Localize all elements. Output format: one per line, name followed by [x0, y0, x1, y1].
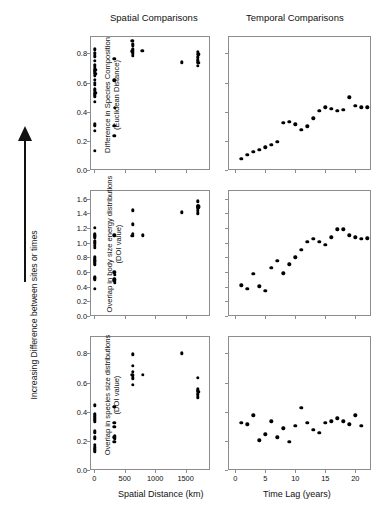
data-point [324, 421, 327, 424]
data-point [354, 104, 357, 107]
data-point [258, 285, 261, 288]
data-point [141, 49, 144, 52]
x-tick-label: 15 [321, 474, 329, 483]
data-point [348, 95, 351, 98]
plot-area [228, 336, 371, 470]
data-point [288, 263, 291, 266]
y-tick-mark [87, 470, 90, 471]
y-tick-mark [225, 441, 228, 442]
y-tick-label: 0.4 [77, 107, 87, 116]
y-tick-mark [87, 316, 90, 317]
data-point [180, 211, 183, 214]
data-point [360, 424, 363, 427]
x-tick-label: 1000 [147, 474, 163, 483]
y-tick-mark [87, 441, 90, 442]
x-tick-label: 10 [291, 474, 299, 483]
y-axis-title-mid: Overlap in body size energy distribution… [105, 170, 123, 318]
data-point [258, 438, 261, 441]
y-tick-mark [87, 53, 90, 54]
y-axis-title-top-line2: (Euclidean Distance) [112, 19, 121, 171]
y-tick-label: 1.6 [77, 194, 87, 203]
data-point [246, 287, 249, 290]
data-point [131, 353, 134, 356]
data-point [300, 248, 303, 251]
y-tick-label: 0.0 [77, 166, 87, 175]
data-point [276, 140, 279, 143]
data-point [131, 377, 134, 380]
data-point [240, 157, 243, 160]
y-tick-mark [87, 287, 90, 288]
y-tick-label: 1.4 [77, 209, 87, 218]
y-tick-mark [87, 301, 90, 302]
data-point [342, 108, 345, 111]
data-point [131, 364, 134, 367]
y-axis-title-bot-line1: Overlap in species size distributions [103, 335, 112, 456]
data-point [360, 106, 363, 109]
x-tick-mark [295, 316, 296, 319]
data-point [276, 436, 279, 439]
data-point [276, 259, 279, 262]
data-point [342, 227, 345, 230]
y-tick-mark [225, 141, 228, 142]
y-tick-mark [225, 83, 228, 84]
x-tick-mark [125, 316, 126, 319]
x-tick-mark [295, 170, 296, 173]
y-tick-mark [225, 412, 228, 413]
x-tick-mark [155, 470, 156, 473]
y-axis-title-top-line1: Difference in Species Composition [103, 37, 112, 153]
data-point [270, 143, 273, 146]
y-tick-label: 0.8 [77, 349, 87, 358]
y-axis-title-bot-line2: (DOI value) [112, 319, 121, 471]
data-point [258, 148, 261, 151]
data-point [318, 240, 321, 243]
y-tick-mark [225, 257, 228, 258]
data-point [93, 403, 96, 406]
data-point [131, 54, 134, 57]
x-tick-mark [325, 470, 326, 473]
y-tick-mark [87, 272, 90, 273]
data-point [324, 106, 327, 109]
panel-species-composition-temporal [228, 36, 371, 170]
data-point [93, 287, 96, 290]
y-tick-mark [225, 353, 228, 354]
data-point [312, 428, 315, 431]
x-tick-mark [355, 316, 356, 319]
data-point [93, 149, 96, 152]
data-point [348, 234, 351, 237]
y-tick-label: 0.0 [77, 466, 87, 475]
data-point [93, 129, 96, 132]
x-tick-mark [265, 316, 266, 319]
data-point [240, 284, 243, 287]
data-point [294, 256, 297, 259]
x-tick-label: 500 [119, 474, 131, 483]
data-point [318, 431, 321, 434]
data-point [264, 146, 267, 149]
x-tick-mark [295, 470, 296, 473]
data-point [93, 47, 96, 50]
y-tick-mark [87, 199, 90, 200]
x-tick-mark [235, 470, 236, 473]
y-tick-mark [87, 228, 90, 229]
data-point [306, 421, 309, 424]
y-tick-label: 0.2 [77, 297, 87, 306]
data-point [342, 420, 345, 423]
x-tick-mark [125, 470, 126, 473]
y-tick-mark [225, 383, 228, 384]
data-point [306, 125, 309, 128]
y-tick-mark [225, 272, 228, 273]
column-heading-spatial: Spatial Comparisons [110, 12, 198, 23]
plot-area [228, 36, 371, 170]
y-tick-mark [225, 470, 228, 471]
x-tick-mark [325, 170, 326, 173]
y-tick-mark [87, 257, 90, 258]
x-tick-mark [265, 170, 266, 173]
data-point [93, 226, 96, 229]
y-tick-mark [225, 228, 228, 229]
x-tick-mark [94, 470, 95, 473]
data-point [93, 100, 96, 103]
data-point [252, 150, 255, 153]
data-point [318, 109, 321, 112]
y-tick-mark [87, 412, 90, 413]
data-point [252, 272, 255, 275]
x-axis-title-spatial: Spatial Distance (km) [118, 489, 204, 499]
